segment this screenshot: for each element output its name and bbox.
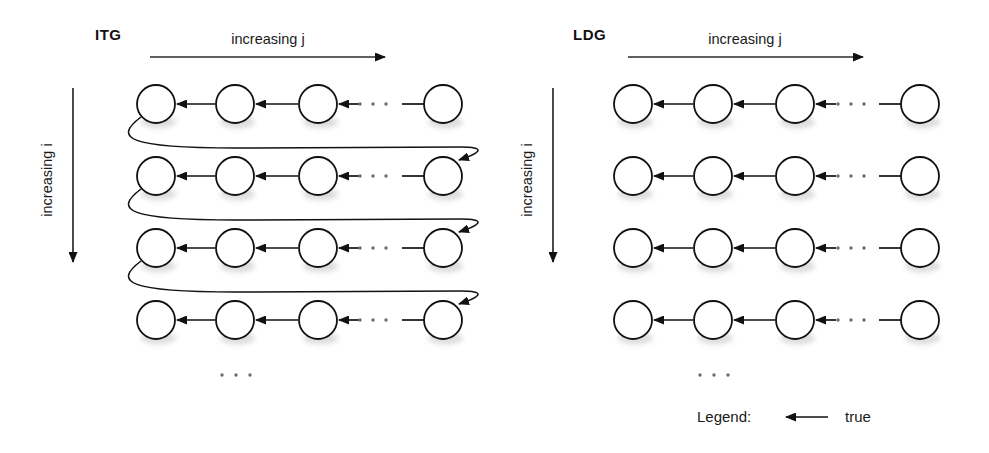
node-ldg-r1-c0[interactable] — [614, 157, 652, 195]
node-itg-r3-c2[interactable] — [299, 301, 337, 339]
legend: Legend: true — [697, 408, 871, 425]
node-ldg-r3-c0[interactable] — [614, 301, 652, 339]
node-itg-r2-c2[interactable] — [299, 229, 337, 267]
node-ldg-r2-c2[interactable] — [776, 229, 814, 267]
axis-label-increasing-i-ldg: increasing i — [519, 143, 535, 216]
node-itg-r0-c3[interactable] — [424, 85, 462, 123]
node-ldg-r3-c2[interactable] — [776, 301, 814, 339]
row-ellipsis-dot-ldg-r0-2 — [862, 102, 865, 105]
node-itg-r0-c2[interactable] — [299, 85, 337, 123]
row-ellipsis-dot-itg-r0-1 — [371, 102, 374, 105]
column-ellipsis-dot-ldg-0 — [698, 373, 701, 376]
wraparound-edge-layer — [128, 117, 478, 304]
row-ellipsis-dot-ldg-r1-0 — [836, 174, 839, 177]
axis-label-increasing-j-itg: increasing j — [231, 31, 304, 47]
wraparound-edge-itg-r1 — [128, 189, 478, 232]
row-ellipsis-dot-itg-r3-0 — [358, 318, 361, 321]
edge-layer — [177, 104, 901, 320]
row-ellipsis-dot-itg-r3-1 — [371, 318, 374, 321]
node-itg-r1-c0[interactable] — [137, 157, 175, 195]
row-ellipsis-dot-itg-r2-1 — [371, 246, 374, 249]
node-itg-r1-c1[interactable] — [216, 157, 254, 195]
node-itg-r0-c0[interactable] — [137, 85, 175, 123]
legend-prefix-label: Legend: — [697, 408, 751, 425]
legend-entry-label: true — [845, 408, 871, 425]
node-layer — [137, 85, 939, 339]
row-ellipsis-dot-ldg-r1-2 — [862, 174, 865, 177]
panel-title-itg: ITG — [95, 26, 122, 43]
row-ellipsis-dot-ldg-r2-0 — [836, 246, 839, 249]
node-itg-r2-c0[interactable] — [137, 229, 175, 267]
node-ldg-r1-c2[interactable] — [776, 157, 814, 195]
wraparound-edge-itg-r2 — [128, 261, 478, 304]
row-ellipsis-dot-itg-r3-2 — [384, 318, 387, 321]
node-itg-r2-c3[interactable] — [424, 229, 462, 267]
node-ldg-r2-c0[interactable] — [614, 229, 652, 267]
node-ldg-r0-c2[interactable] — [776, 85, 814, 123]
column-ellipsis-dot-ldg-2 — [726, 373, 729, 376]
column-ellipsis-dot-itg-0 — [220, 373, 223, 376]
node-ldg-r3-c1[interactable] — [694, 301, 732, 339]
node-ldg-r0-c1[interactable] — [694, 85, 732, 123]
column-ellipsis-dot-ldg-1 — [712, 373, 715, 376]
node-ldg-r1-c3[interactable] — [901, 157, 939, 195]
axis-label-increasing-i-itg: increasing i — [39, 143, 55, 216]
row-ellipsis-dot-itg-r1-1 — [371, 174, 374, 177]
row-ellipsis-dot-itg-r0-2 — [384, 102, 387, 105]
axis-layer — [73, 57, 863, 262]
axis-label-increasing-j-ldg: increasing j — [708, 31, 781, 47]
row-ellipsis-dot-ldg-r3-1 — [849, 318, 852, 321]
row-ellipsis-dot-ldg-r2-1 — [849, 246, 852, 249]
wraparound-edge-itg-r0 — [128, 117, 478, 160]
row-ellipsis-dot-ldg-r0-1 — [849, 102, 852, 105]
column-ellipsis-dot-itg-2 — [248, 373, 251, 376]
node-shadow-layer — [141, 116, 940, 345]
node-itg-r1-c3[interactable] — [424, 157, 462, 195]
row-ellipsis-dot-ldg-r3-2 — [862, 318, 865, 321]
node-itg-r3-c0[interactable] — [137, 301, 175, 339]
row-ellipsis-dot-itg-r2-0 — [358, 246, 361, 249]
row-ellipsis-dot-itg-r0-0 — [358, 102, 361, 105]
node-ldg-r0-c3[interactable] — [901, 85, 939, 123]
row-ellipsis-dot-ldg-r2-2 — [862, 246, 865, 249]
column-ellipsis-dot-itg-1 — [234, 373, 237, 376]
node-ldg-r3-c3[interactable] — [901, 301, 939, 339]
row-ellipsis-dot-ldg-r3-0 — [836, 318, 839, 321]
node-ldg-r2-c3[interactable] — [901, 229, 939, 267]
node-ldg-r2-c1[interactable] — [694, 229, 732, 267]
row-ellipsis-dot-ldg-r0-0 — [836, 102, 839, 105]
dependence-graph-diagram: ITG increasing j increasing i LDG increa… — [0, 0, 989, 453]
figure-canvas: ITG increasing j increasing i LDG increa… — [0, 0, 989, 453]
row-ellipsis-dot-itg-r2-2 — [384, 246, 387, 249]
row-ellipsis-dot-itg-r1-2 — [384, 174, 387, 177]
node-itg-r2-c1[interactable] — [216, 229, 254, 267]
node-itg-r0-c1[interactable] — [216, 85, 254, 123]
node-itg-r3-c3[interactable] — [424, 301, 462, 339]
row-ellipsis-dot-itg-r1-0 — [358, 174, 361, 177]
node-itg-r1-c2[interactable] — [299, 157, 337, 195]
panel-title-ldg: LDG — [573, 26, 606, 43]
node-ldg-r1-c1[interactable] — [694, 157, 732, 195]
row-ellipsis-dot-ldg-r1-1 — [849, 174, 852, 177]
node-itg-r3-c1[interactable] — [216, 301, 254, 339]
node-ldg-r0-c0[interactable] — [614, 85, 652, 123]
